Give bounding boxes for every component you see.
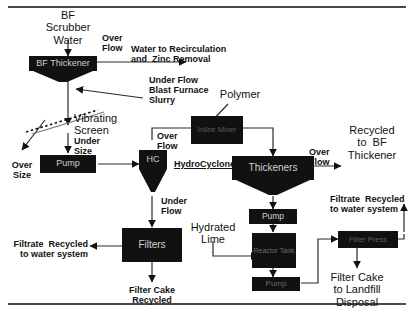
under-flow-1-label: Under Flow Blast Furnace Slurry [149,75,209,105]
under-size-label: Under Size [74,136,100,156]
over-size-label: Over Size [12,160,33,180]
reactor-tank: Reactor Tank [252,233,296,268]
filtrate-right-label: Filtrate Recycled to water system [330,194,405,214]
water-recirculation-label: Water to Recirculation and Zinc Removal [131,44,226,64]
hydrated-lime-label: Hydrated Lime [191,221,236,246]
hydrocyclone-label-wrap: HC [139,150,167,169]
filter-cake-landfill-label: Filter Cake to Landfill Disposal [330,271,383,308]
pump-reactor-label: Pump [266,280,287,288]
pump-screen: Pump [40,155,96,173]
process-flow-diagram: BF Thickener Pump HC Inline Mixer Thicke… [0,0,414,318]
under-flow-2-label: Under Flow [161,196,187,216]
pump-screen-label: Pump [56,159,80,168]
inline-mixer-label: Inline Mixer [198,126,236,134]
filter-cake-recycled-label: Filter Cake Recycled [129,285,175,305]
thickeners-label: Thickeners [249,163,298,174]
pump-thickener-label: Pump [262,212,284,221]
thickeners-label-wrap: Thickeners [232,156,314,180]
filtrate-left-label: Filtrate Recycled to water system [13,239,88,259]
over-flow-3-label: Over Flow [309,147,330,167]
polymer-label: Polymer [220,88,260,100]
filter-press: Filter Press [338,231,398,248]
pump-reactor: Pump [252,277,300,291]
inline-mixer: Inline Mixer [191,116,243,144]
over-flow-1-label: Over Flow [102,33,123,53]
feed-label: BF Scrubber Water [46,9,91,46]
filter-press-label: Filter Press [349,236,387,244]
pump-thickener: Pump [249,209,297,224]
hydrocyclone-label: HC [147,155,160,164]
hydrocyclones-annotation: HydroCyclones [174,159,240,169]
vibrating-screen-label: Vibrating Screen [74,112,117,137]
filters-label: Filters [138,240,165,251]
bf-thickener-label: BF Thickener [36,59,89,68]
bf-thickener-label-wrap: BF Thickener [29,56,97,71]
over-flow-2-label: Over Flow [157,131,178,151]
recycled-bf-label: Recycled to BF Thickener [348,124,396,161]
reactor-tank-label: Reactor Tank [253,247,294,254]
filters: Filters [122,228,182,262]
